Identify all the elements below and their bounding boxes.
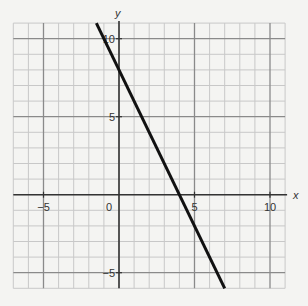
y-tick-label: 5 (109, 111, 115, 123)
x-tick-label: 10 (264, 201, 276, 213)
x-axis-label: x (292, 189, 299, 201)
series-line (96, 23, 224, 288)
x-tick-label: −5 (37, 201, 50, 213)
y-axis-label: y (114, 7, 122, 19)
axes (13, 21, 287, 288)
coordinate-plane: −5510105−50 x y (0, 0, 308, 306)
origin-label: 0 (106, 201, 112, 213)
plotted-line (96, 23, 224, 288)
x-tick-label: 5 (191, 201, 197, 213)
minor-grid (13, 23, 285, 288)
y-tick-label: −5 (102, 267, 115, 279)
